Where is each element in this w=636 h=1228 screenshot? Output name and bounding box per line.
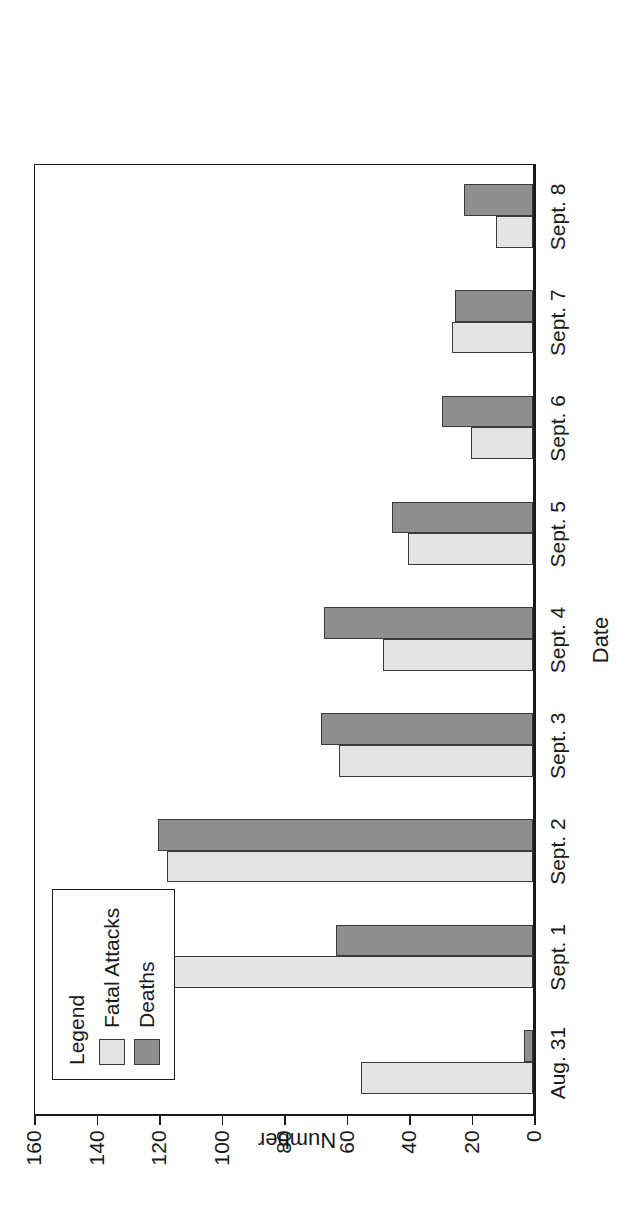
y-axis-tick <box>409 1116 411 1125</box>
x-axis-tick-label: Sept. 6 <box>546 395 570 462</box>
y-axis-tick <box>472 1116 474 1125</box>
y-axis-tick <box>284 1116 286 1125</box>
y-axis-title: Number <box>197 1127 397 1153</box>
legend-label-fatal-attacks: Fatal Attacks <box>100 908 124 1028</box>
legend-swatch-deaths <box>134 1039 160 1065</box>
bar-group <box>33 502 533 565</box>
bar-fatal-attacks <box>408 533 533 565</box>
legend-item-deaths: Deaths <box>134 908 160 1065</box>
y-axis-tick-label: 140 <box>85 1130 109 1166</box>
bar-deaths <box>336 925 533 957</box>
bar-group <box>33 713 533 776</box>
y-axis-tick <box>159 1116 161 1125</box>
x-axis-title: Date <box>588 164 614 1116</box>
legend-swatch-fatal-attacks <box>99 1039 125 1065</box>
x-axis-tick-label: Sept. 3 <box>546 713 570 780</box>
bar-deaths <box>455 290 533 322</box>
x-axis-tick-label: Sept. 4 <box>546 607 570 674</box>
rotated-figure-canvas: 020406080100120140160 Date Number Legend… <box>0 0 636 1228</box>
bar-group <box>33 607 533 670</box>
y-axis-tick-label: 20 <box>460 1130 484 1154</box>
bar-fatal-attacks <box>383 639 533 671</box>
value-axis: 020406080100120140160 <box>34 1114 534 1116</box>
bar-group <box>33 184 533 247</box>
bar-fatal-attacks <box>452 322 533 354</box>
bar-chart-figure: 020406080100120140160 Date Number Legend… <box>0 0 636 1228</box>
y-axis-tick <box>97 1116 99 1125</box>
y-axis-tick <box>34 1116 36 1125</box>
bar-fatal-attacks <box>167 851 533 883</box>
legend-label-deaths: Deaths <box>135 961 159 1028</box>
bar-fatal-attacks <box>339 745 533 777</box>
x-axis-tick-label: Sept. 2 <box>546 818 570 885</box>
legend-item-fatal-attacks: Fatal Attacks <box>99 908 125 1065</box>
x-axis-tick-label: Sept. 5 <box>546 501 570 568</box>
y-axis-tick <box>347 1116 349 1125</box>
y-axis-tick-label: 160 <box>22 1130 46 1166</box>
bar-deaths <box>324 607 533 639</box>
x-axis-tick-label: Aug. 31 <box>546 1027 570 1099</box>
bar-deaths <box>392 502 533 534</box>
bar-deaths <box>524 1030 533 1062</box>
bar-group <box>33 396 533 459</box>
bar-fatal-attacks <box>361 1062 533 1094</box>
legend-title: Legend <box>65 908 89 1065</box>
bar-group <box>33 819 533 882</box>
x-axis-tick-label: Sept. 1 <box>546 924 570 991</box>
legend: Legend Fatal Attacks Deaths <box>52 889 175 1080</box>
bar-group <box>33 290 533 353</box>
bar-fatal-attacks <box>496 216 534 248</box>
y-axis-tick-label: 0 <box>522 1130 546 1142</box>
bar-deaths <box>158 819 533 851</box>
x-axis-tick-label: Sept. 7 <box>546 289 570 356</box>
y-axis-tick-label: 120 <box>147 1130 171 1166</box>
bar-fatal-attacks <box>471 427 534 459</box>
x-axis-tick-label: Sept. 8 <box>546 184 570 251</box>
bar-deaths <box>464 184 533 216</box>
y-axis-tick-label: 40 <box>397 1130 421 1154</box>
y-axis-tick <box>534 1116 536 1125</box>
bar-deaths <box>321 713 534 745</box>
bar-deaths <box>442 396 533 428</box>
y-axis-tick <box>222 1116 224 1125</box>
category-axis-line <box>534 164 536 1116</box>
